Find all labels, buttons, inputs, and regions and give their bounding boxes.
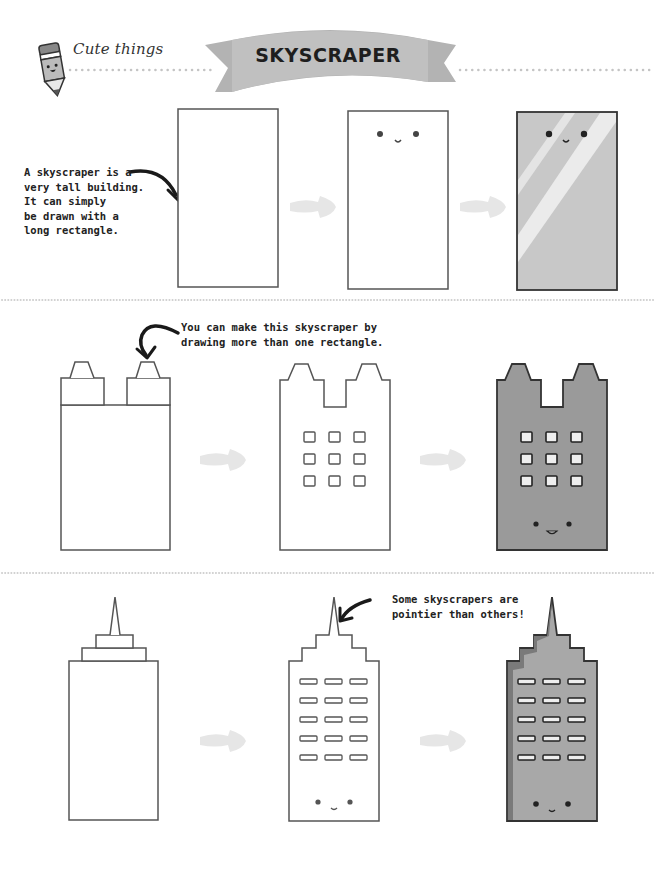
window-icon: [329, 476, 340, 486]
window-icon: [350, 679, 367, 684]
window-icon: [568, 698, 585, 703]
caption-line: A skyscraper is a: [24, 165, 144, 180]
step2-outlined-building-with-windows: [280, 364, 390, 550]
window-icon: [543, 717, 560, 722]
window-icon: [571, 476, 582, 486]
window-icon: [325, 717, 342, 722]
step-arrow-r2-a: [200, 449, 246, 471]
caption-line: very tall building.: [24, 180, 144, 195]
window-icon: [354, 454, 365, 464]
row1-caption: A skyscraper is a very tall building. It…: [24, 165, 144, 238]
caption-line: drawing more than one rectangle.: [181, 335, 383, 350]
step1-plain-rectangle: [178, 109, 278, 287]
window-icon: [543, 736, 560, 741]
eye-icon: [377, 131, 383, 137]
caption-line: long rectangle.: [24, 223, 144, 238]
eye-icon: [413, 131, 419, 137]
step3-colored-spire-building: [507, 597, 597, 821]
window-icon: [546, 476, 557, 486]
row2-caption: You can make this skyscraper by drawing …: [181, 320, 383, 349]
window-icon: [518, 755, 535, 760]
window-icon: [543, 698, 560, 703]
window-icon: [300, 717, 317, 722]
window-icon: [518, 679, 535, 684]
step-arrow-r1-a: [290, 196, 336, 218]
window-icon: [300, 698, 317, 703]
window-icon: [521, 432, 532, 442]
pointer-arrow-row3: [341, 600, 370, 620]
window-icon: [304, 476, 315, 486]
caption-line: pointier than others!: [392, 607, 525, 622]
step2-outlined-spire-building: [289, 597, 379, 821]
window-icon: [304, 432, 315, 442]
window-icon: [350, 717, 367, 722]
pencil-mascot-icon: [39, 43, 68, 98]
window-icon: [568, 717, 585, 722]
window-icon: [568, 755, 585, 760]
window-icon: [325, 698, 342, 703]
window-icon: [304, 454, 315, 464]
window-icon: [350, 755, 367, 760]
window-icon: [571, 432, 582, 442]
window-icon: [300, 679, 317, 684]
pointer-arrow-row2: [141, 326, 178, 355]
section-label: Cute things: [73, 40, 163, 58]
page-title: SKYSCRAPER: [233, 44, 423, 66]
caption-line: Some skyscrapers are: [392, 592, 525, 607]
caption-line: You can make this skyscraper by: [181, 320, 383, 335]
window-icon: [543, 679, 560, 684]
step1-tiered-spire-rectangles: [69, 597, 158, 820]
window-icon: [518, 698, 535, 703]
step3-colored-building-with-face: [497, 364, 607, 550]
window-icon: [546, 432, 557, 442]
step3-colored-glass-building: [517, 112, 617, 290]
window-icon: [300, 736, 317, 741]
step-arrow-r3-b: [420, 730, 466, 752]
window-icon: [354, 432, 365, 442]
window-icon: [325, 679, 342, 684]
window-icon: [546, 454, 557, 464]
window-icon: [350, 736, 367, 741]
window-icon: [521, 454, 532, 464]
caption-line: It can simply: [24, 194, 144, 209]
window-icon: [354, 476, 365, 486]
step-arrow-r3-a: [200, 730, 246, 752]
step2-rectangle-with-face: [348, 111, 448, 289]
step1-stacked-rectangles: [61, 362, 170, 550]
page-artwork: [0, 0, 656, 870]
window-icon: [568, 736, 585, 741]
window-icon: [325, 755, 342, 760]
window-icon: [329, 432, 340, 442]
window-icon: [571, 454, 582, 464]
window-icon: [518, 717, 535, 722]
window-icon: [568, 679, 585, 684]
window-icon: [325, 736, 342, 741]
window-icon: [518, 736, 535, 741]
window-icon: [543, 755, 560, 760]
window-icon: [350, 698, 367, 703]
window-icon: [329, 454, 340, 464]
window-icon: [300, 755, 317, 760]
step-arrow-r1-b: [460, 196, 506, 218]
row3-caption: Some skyscrapers are pointier than other…: [392, 592, 525, 621]
window-icon: [521, 476, 532, 486]
step-arrow-r2-b: [420, 449, 466, 471]
caption-line: be drawn with a: [24, 209, 144, 224]
